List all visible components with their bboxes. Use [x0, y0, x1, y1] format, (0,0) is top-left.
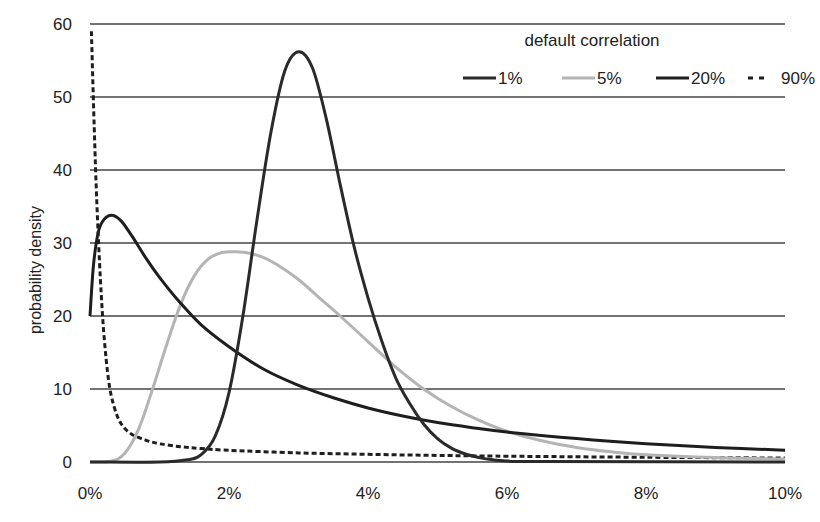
legend-entry-1pct: 1% — [463, 69, 523, 88]
legend-entry-90pct: 90% — [748, 69, 815, 88]
series-line-5pct — [90, 252, 785, 463]
chart: 0102030405060 0%2%4%6%8%10% probability … — [0, 0, 820, 522]
legend-label: 1% — [498, 69, 523, 88]
series-line-20pct — [90, 215, 785, 450]
y-tick-label: 0 — [63, 453, 72, 472]
legend-label: 20% — [691, 69, 725, 88]
x-tick-label: 6% — [495, 484, 520, 503]
legend-label: 5% — [597, 69, 622, 88]
x-tick-label: 8% — [634, 484, 659, 503]
y-tick-label: 50 — [53, 88, 72, 107]
y-axis-ticks: 0102030405060 — [53, 15, 72, 472]
series-line-90pct — [91, 31, 785, 458]
gridlines — [90, 24, 785, 462]
legend-label: 90% — [781, 69, 815, 88]
legend: default correlation 1%5%20%90% — [463, 31, 815, 88]
x-tick-label: 0% — [78, 484, 103, 503]
y-tick-label: 30 — [53, 234, 72, 253]
series-lines — [90, 31, 785, 462]
legend-entries: 1%5%20%90% — [463, 69, 815, 88]
x-axis-ticks: 0%2%4%6%8%10% — [78, 484, 802, 503]
x-tick-label: 10% — [768, 484, 802, 503]
y-axis-label: probability density — [27, 206, 44, 334]
y-tick-label: 40 — [53, 161, 72, 180]
y-tick-label: 60 — [53, 15, 72, 34]
y-tick-label: 10 — [53, 380, 72, 399]
x-tick-label: 2% — [217, 484, 242, 503]
x-tick-label: 4% — [356, 484, 381, 503]
y-tick-label: 20 — [53, 307, 72, 326]
legend-title: default correlation — [524, 31, 659, 50]
legend-entry-5pct: 5% — [562, 69, 622, 88]
series-line-1pct — [90, 52, 785, 463]
legend-entry-20pct: 20% — [656, 69, 725, 88]
